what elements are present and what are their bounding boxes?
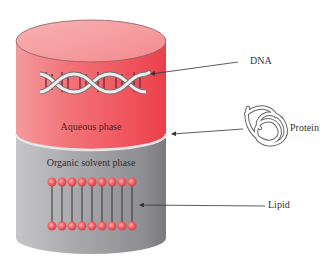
lipid-label: Lipid [268,199,290,210]
protein-label: Protein [290,122,319,133]
protein-icon [246,107,286,144]
dna-label: DNA [250,55,272,66]
organic-phase [16,138,166,254]
organic-phase-label: Organic solvent phase [16,157,166,168]
protein-arrow [172,129,243,134]
lipid-bilayer-icon [48,178,137,231]
aqueous-phase-label: Aqueous phase [16,121,166,132]
